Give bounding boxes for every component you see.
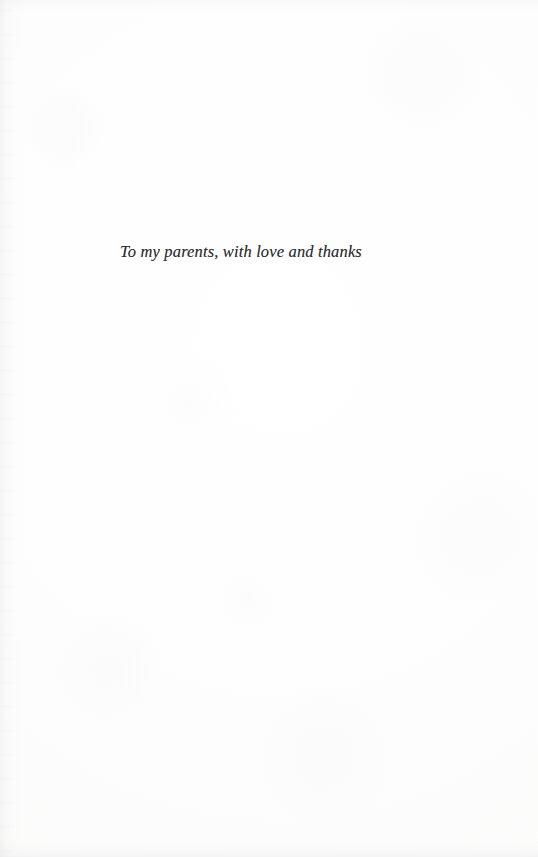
dedication-text: To my parents, with love and thanks (120, 242, 362, 263)
scanned-book-page: To my parents, with love and thanks (0, 0, 538, 857)
dedication-block: To my parents, with love and thanks (0, 242, 482, 263)
paper-background (0, 0, 538, 857)
